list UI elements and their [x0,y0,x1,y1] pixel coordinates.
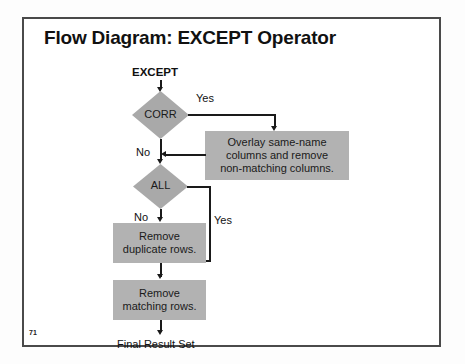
decision-corr-label: CORR [132,108,189,120]
connector-overlay-return [166,154,206,156]
process-remove-matching-line1: Remove [123,287,197,300]
all-yes-label: Yes [214,214,232,226]
page-title: Flow Diagram: EXCEPT Operator [44,27,374,49]
flow-entry-label: EXCEPT [132,66,178,78]
process-overlay-line2: columns and remove [220,149,334,162]
arrowhead-all-no [157,217,163,222]
slide-canvas: Flow Diagram: EXCEPT Operator EXCEPT COR… [0,0,465,364]
decision-all[interactable]: ALL [133,164,188,209]
process-overlay-line1: Overlay same-name [220,136,334,149]
arrowhead-duplicates-to-matching [157,274,163,279]
slide-frame [22,17,441,347]
decision-all-label: ALL [133,179,188,191]
process-remove-duplicates-line2: duplicate rows. [123,243,196,256]
process-remove-matching[interactable]: Remove matching rows. [113,280,206,320]
process-remove-duplicates-line1: Remove [123,230,196,243]
page-number: 71 [29,329,37,336]
corr-yes-label: Yes [196,92,214,104]
arrowhead-matching-to-result [157,330,163,335]
flow-exit-label: Final Result Set [117,338,195,350]
process-overlay[interactable]: Overlay same-name columns and remove non… [205,131,349,180]
process-remove-matching-line2: matching rows. [123,300,197,313]
decision-corr[interactable]: CORR [132,91,189,139]
connector-corr-yes-horizontal [188,114,276,116]
connector-corr-no [160,139,162,161]
connector-all-yes-vertical [209,186,211,261]
arrowhead-overlay-return [161,151,166,157]
process-overlay-line3: non-matching columns. [220,162,334,175]
connector-all-yes-horizontal [187,186,211,188]
all-no-label: No [134,211,148,223]
process-remove-duplicates[interactable]: Remove duplicate rows. [113,223,206,263]
corr-no-label: No [136,146,150,158]
